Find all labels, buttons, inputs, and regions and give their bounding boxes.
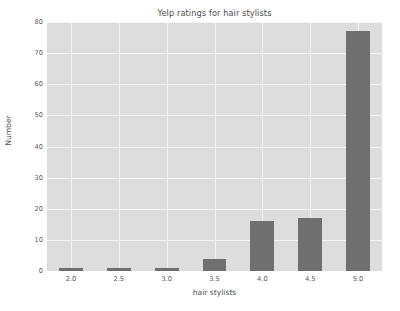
y-tick-label: 50 bbox=[3, 111, 43, 119]
x-tick-label: 4.5 bbox=[285, 275, 335, 283]
chart-title: Yelp ratings for hair stylists bbox=[47, 8, 382, 18]
bar bbox=[346, 31, 370, 271]
x-tick-label: 3.0 bbox=[142, 275, 192, 283]
x-tick-label: 4.0 bbox=[237, 275, 287, 283]
y-tick-label: 80 bbox=[3, 18, 43, 26]
bar bbox=[203, 259, 227, 271]
chart-figure: Yelp ratings for hair stylists Number 01… bbox=[0, 0, 400, 311]
y-tick-label: 30 bbox=[3, 174, 43, 182]
bar bbox=[59, 268, 83, 271]
y-tick-label: 60 bbox=[3, 80, 43, 88]
y-axis-ticks: 01020304050607080 bbox=[0, 22, 43, 271]
y-tick-label: 20 bbox=[3, 205, 43, 213]
gridline-vertical bbox=[119, 22, 120, 271]
x-axis-ticks: 2.02.53.03.54.04.55.0 bbox=[47, 275, 382, 287]
y-tick-label: 10 bbox=[3, 236, 43, 244]
bar bbox=[155, 268, 179, 271]
bar bbox=[107, 268, 131, 271]
x-tick-label: 5.0 bbox=[333, 275, 383, 283]
bar bbox=[298, 218, 322, 271]
gridline-vertical bbox=[167, 22, 168, 271]
x-tick-label: 2.5 bbox=[94, 275, 144, 283]
y-tick-label: 40 bbox=[3, 143, 43, 151]
y-tick-label: 70 bbox=[3, 49, 43, 57]
x-tick-label: 2.0 bbox=[46, 275, 96, 283]
gridline-vertical bbox=[71, 22, 72, 271]
x-tick-label: 3.5 bbox=[190, 275, 240, 283]
plot-area bbox=[47, 22, 382, 271]
x-axis-label: hair stylists bbox=[47, 288, 382, 297]
gridline-vertical bbox=[215, 22, 216, 271]
y-tick-label: 0 bbox=[3, 267, 43, 275]
bar bbox=[250, 221, 274, 271]
